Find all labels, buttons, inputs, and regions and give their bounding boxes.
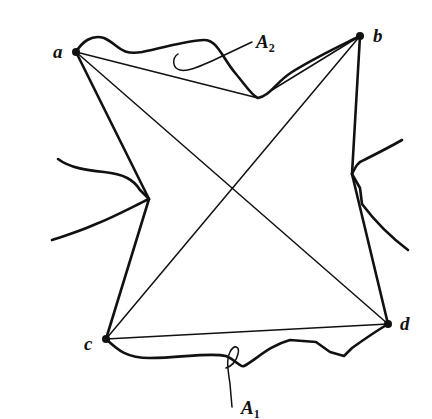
region-leaders [174, 42, 252, 407]
boundary-edges [52, 36, 408, 366]
vertex-label-d: d [400, 314, 410, 333]
left-lower-curve [52, 199, 149, 240]
vertex-b-dot [356, 32, 364, 40]
geometry-figure [0, 0, 432, 419]
vertex-a-dot [72, 48, 80, 56]
leader-a2 [174, 42, 252, 70]
vertex-d-dot [384, 320, 392, 328]
vertex-label-b: b [373, 26, 383, 45]
chords [76, 36, 388, 339]
bottom-surface-curve [106, 324, 388, 366]
vertex-c-dot [102, 335, 110, 343]
chord-b-top [272, 36, 360, 90]
region-label-a1: A1 [241, 398, 260, 419]
region-label-a2: A2 [256, 32, 275, 54]
edge-b-d [352, 36, 388, 324]
region-a2-letter: A [256, 31, 269, 52]
vertex-label-a: a [53, 42, 63, 61]
chord-c-d [106, 324, 388, 339]
leader-a1 [226, 347, 238, 407]
region-a1-subscript: 1 [254, 407, 260, 419]
edge-a-c [76, 52, 149, 339]
region-a2-subscript: 2 [269, 41, 275, 55]
vertex-label-c: c [84, 334, 92, 353]
left-upper-curve [58, 159, 149, 199]
right-upper-curve [352, 140, 402, 174]
region-a1-letter: A [241, 397, 254, 418]
